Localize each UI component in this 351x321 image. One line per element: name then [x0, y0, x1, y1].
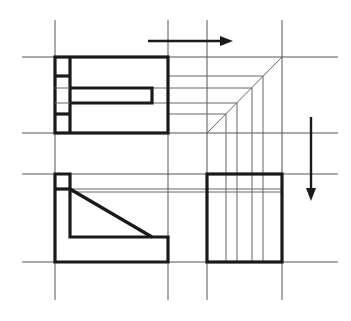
front-view-outline [55, 174, 168, 262]
projection-arrow-right [148, 36, 233, 46]
miter-line [207, 57, 282, 133]
top-view-slot [70, 88, 152, 103]
top-view [55, 57, 168, 133]
transfer-lines-vertical [226, 76, 263, 262]
side-view [207, 174, 282, 262]
front-view [55, 174, 168, 262]
projection-diagram [0, 0, 351, 321]
projection-arrow-down [306, 117, 316, 201]
arrow-down-icon [306, 188, 316, 201]
side-view-outline [207, 174, 282, 262]
arrow-right-icon [220, 36, 233, 46]
front-view-rib-diagonal [70, 189, 152, 237]
transfer-lines-front-to-side [70, 189, 282, 192]
